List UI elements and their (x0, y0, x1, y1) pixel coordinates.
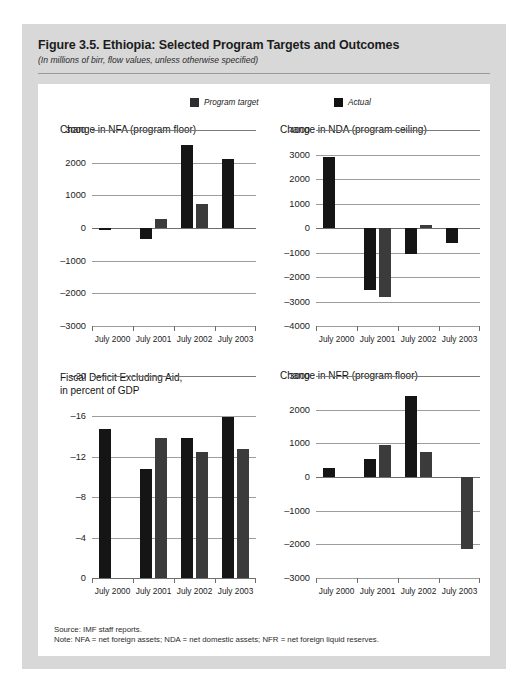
x-axis-tick (398, 326, 399, 331)
legend-swatch-actual-icon (334, 98, 343, 107)
chart-panel-fiscal-deficit: Fiscal Deficit Excluding Aid, in percent… (46, 368, 264, 614)
bar (323, 157, 335, 228)
source-note: Source: IMF staff reports. (54, 625, 379, 636)
y-axis-tick-label: 3000 (289, 371, 310, 381)
x-axis-labels-fiscal-deficit: July 2000July 2001July 2002July 2003 (92, 586, 256, 596)
y-axis-tick-label: –20 (70, 371, 86, 381)
gridline (92, 293, 256, 294)
bar (461, 477, 473, 549)
bar (420, 452, 432, 477)
x-axis-tick (316, 326, 317, 331)
y-axis-tick-label: 1000 (65, 190, 86, 200)
x-axis-label: July 2003 (215, 334, 256, 344)
x-axis-labels-nfr: July 2000July 2001July 2002July 2003 (316, 586, 480, 596)
gridline (316, 130, 480, 131)
bar (196, 204, 208, 228)
x-axis-label: July 2000 (316, 586, 357, 596)
gridline (316, 511, 480, 512)
gridline (316, 410, 480, 411)
x-axis-tick (92, 578, 93, 583)
x-axis-label: July 2001 (357, 334, 398, 344)
y-axis-tick-label: –2000 (284, 272, 310, 282)
bar (379, 445, 391, 477)
bar (140, 469, 152, 578)
bar (222, 159, 234, 228)
bar (196, 452, 208, 578)
x-axis-tick (174, 578, 175, 583)
chart-card: Program target Actual Change in NFA (pro… (38, 84, 490, 656)
bar (181, 438, 193, 578)
x-axis-tick (439, 326, 440, 331)
bar (222, 417, 234, 578)
plot-area-nfa: 3000200010000–1000–2000–3000 (92, 130, 256, 326)
bar (405, 228, 417, 254)
y-axis-tick-label: 3000 (289, 150, 310, 160)
bar (323, 468, 335, 477)
legend-label-actual: Actual (348, 98, 371, 107)
x-axis-label: July 2003 (439, 586, 480, 596)
gridline (92, 376, 256, 377)
y-axis-tick-label: –1000 (60, 256, 86, 266)
gridline (316, 253, 480, 254)
y-axis-tick-label: 3000 (65, 125, 86, 135)
x-axis-tick (215, 578, 216, 583)
y-axis-tick-label: –12 (70, 452, 86, 462)
x-axis-tick (479, 578, 480, 583)
bar (155, 438, 167, 578)
bar (99, 228, 111, 230)
bar (364, 228, 376, 290)
y-axis-tick-label: –4 (76, 533, 86, 543)
gridline (316, 443, 480, 444)
legend-label-program-target: Program target (204, 98, 259, 107)
legend-swatch-program-target-icon (190, 98, 199, 107)
gridline (316, 544, 480, 545)
gridline (316, 302, 480, 303)
y-axis-tick-label: –2000 (284, 539, 310, 549)
bar (140, 228, 152, 239)
bar (155, 219, 167, 228)
y-axis-tick-label: –8 (76, 492, 86, 502)
y-axis-tick-label: –4000 (284, 321, 310, 331)
bar (405, 396, 417, 477)
bar (364, 459, 376, 477)
y-axis-tick-label: –3000 (284, 573, 310, 583)
y-axis-tick-label: –2000 (60, 288, 86, 298)
x-axis-label: July 2000 (92, 334, 133, 344)
figure-notes: Source: IMF staff reports. Note: NFA = n… (54, 625, 379, 646)
bar (181, 145, 193, 228)
x-axis-tick (479, 326, 480, 331)
x-axis-tick (357, 578, 358, 583)
legend-item-actual: Actual (334, 98, 371, 107)
chart-panel-nfa: Change in NFA (program floor) 3000200010… (46, 122, 264, 360)
x-axis-labels-nfa: July 2000July 2001July 2002July 2003 (92, 334, 256, 344)
y-axis-tick-label: –16 (70, 411, 86, 421)
x-axis-tick (439, 578, 440, 583)
x-axis-label: July 2003 (215, 586, 256, 596)
y-axis-tick-label: 2000 (289, 174, 310, 184)
x-axis-tick (398, 578, 399, 583)
bar (99, 429, 111, 578)
x-axis-label: July 2003 (439, 334, 480, 344)
figure-subtitle: (In millions of birr, flow values, unles… (38, 55, 490, 66)
x-axis-tick (133, 578, 134, 583)
x-axis-label: July 2001 (357, 586, 398, 596)
x-axis-tick (92, 326, 93, 331)
x-axis-tick (316, 578, 317, 583)
x-axis-label: July 2000 (92, 586, 133, 596)
y-axis-tick-label: –1000 (284, 506, 310, 516)
y-axis-tick-label: –3000 (60, 321, 86, 331)
figure-title: Figure 3.5. Ethiopia: Selected Program T… (38, 38, 490, 53)
x-axis-tick (255, 326, 256, 331)
bar (446, 228, 458, 243)
plot-area-fiscal-deficit: –20–16–12–8–40 (92, 376, 256, 578)
gridline (92, 228, 256, 229)
gridline (316, 204, 480, 205)
legend-item-program-target: Program target (190, 98, 259, 107)
bar (237, 449, 249, 578)
y-axis-tick-label: 0 (81, 573, 86, 583)
x-axis-label: July 2000 (316, 334, 357, 344)
plot-area-nfr: 3000200010000–1000–2000–3000 (316, 376, 480, 578)
x-axis-label: July 2001 (133, 586, 174, 596)
chart-panel-nda: Change in NDA (program ceiling) 40003000… (266, 122, 488, 360)
bar (420, 225, 432, 228)
